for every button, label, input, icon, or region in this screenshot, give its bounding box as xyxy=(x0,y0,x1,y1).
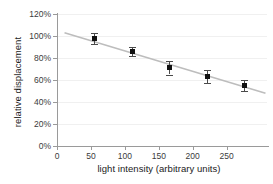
x-tick-label-100: 100 xyxy=(110,152,140,161)
x-axis-line xyxy=(57,146,269,147)
error-bar-cap-lower xyxy=(166,75,173,76)
x-tick-mark-250 xyxy=(227,146,228,150)
gridline-20 xyxy=(57,124,267,125)
y-tick-label-100: 100% xyxy=(5,32,51,41)
x-axis-title: light intensity (arbitrary units) xyxy=(45,163,273,174)
plot-area xyxy=(57,14,267,146)
x-tick-mark-50 xyxy=(91,146,92,150)
y-tick-label-120: 120% xyxy=(5,10,51,19)
gridline-120 xyxy=(57,14,267,15)
x-tick-mark-150 xyxy=(159,146,160,150)
chart-container: relative displacement 120% 100% 80% 60% … xyxy=(0,0,273,184)
x-tick-mark-200 xyxy=(193,146,194,150)
y-tick-label-20: 20% xyxy=(5,120,51,129)
y-tick-mark-60 xyxy=(53,80,57,81)
data-point xyxy=(92,36,97,41)
gridline-40 xyxy=(57,102,267,103)
error-bar-cap-lower xyxy=(241,91,248,92)
error-bar-cap-lower xyxy=(129,56,136,57)
x-tick-label-0: 0 xyxy=(42,152,72,161)
y-tick-mark-20 xyxy=(53,124,57,125)
y-tick-label-60: 60% xyxy=(5,76,51,85)
x-tick-mark-0 xyxy=(57,146,58,150)
gridline-60 xyxy=(57,80,267,81)
y-tick-mark-120 xyxy=(53,14,57,15)
error-bar-cap-lower xyxy=(91,44,98,45)
data-point xyxy=(242,83,247,88)
error-bar-cap-upper xyxy=(204,70,211,71)
data-point xyxy=(205,74,210,79)
error-bar-cap-upper xyxy=(241,80,248,81)
x-tick-label-150: 150 xyxy=(144,152,174,161)
error-bar-cap-upper xyxy=(91,33,98,34)
x-tick-mark-100 xyxy=(125,146,126,150)
y-tick-label-40: 40% xyxy=(5,98,51,107)
x-tick-label-50: 50 xyxy=(76,152,106,161)
gridline-100 xyxy=(57,36,267,37)
x-tick-label-200: 200 xyxy=(178,152,208,161)
gridline-80 xyxy=(57,58,267,59)
x-tick-label-250: 250 xyxy=(212,152,242,161)
data-point xyxy=(130,49,135,54)
error-bar-cap-lower xyxy=(204,83,211,84)
y-tick-label-0: 0% xyxy=(5,142,51,151)
y-tick-mark-80 xyxy=(53,58,57,59)
data-point xyxy=(167,65,172,70)
error-bar-cap-upper xyxy=(129,47,136,48)
error-bar-cap-upper xyxy=(166,61,173,62)
y-tick-mark-100 xyxy=(53,36,57,37)
y-tick-label-80: 80% xyxy=(5,54,51,63)
y-tick-mark-40 xyxy=(53,102,57,103)
